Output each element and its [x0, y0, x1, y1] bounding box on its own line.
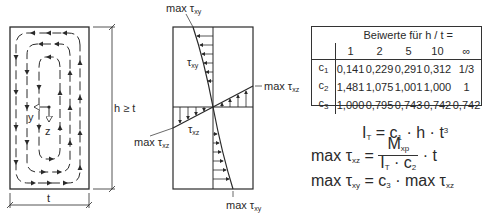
coefficient-table: Beiwerte für h / t = 1 2 5 10 ∞ c1 0,141…	[311, 26, 482, 106]
table-cell: 0,312	[423, 60, 452, 79]
table-row: c1 0,141 0,229 0,291 0,312 1/3	[312, 60, 481, 79]
table-cell: 1,001	[394, 78, 423, 96]
table-cell: 1,481	[336, 78, 366, 96]
cross-section: y z h ≥ t t	[7, 24, 139, 208]
fraction: Mxp IT · c2	[378, 137, 418, 174]
table-header-title: Beiwerte für h / t =	[336, 27, 482, 43]
label-max-tau-xz-right: max τxz	[264, 80, 300, 93]
row-label: c2	[312, 78, 336, 96]
table-cell: 1,000	[423, 78, 452, 96]
formula-max-tau-xy: max τxy = c3 · max τxz	[311, 172, 454, 190]
label-tau-xy: τxy	[187, 56, 199, 70]
column-header: 10	[423, 43, 452, 60]
column-header: ∞	[452, 43, 481, 60]
table-cell: 0,141	[336, 60, 366, 79]
table-cell: 1,000	[336, 96, 366, 114]
dimension-lines	[7, 24, 115, 208]
table-cell: 0,795	[365, 96, 394, 114]
width-dimension-label: t	[47, 192, 50, 204]
table-cell: 0,742	[423, 96, 452, 114]
label-max-tau-xy-bottom: max τxy	[226, 199, 262, 213]
height-dimension-label: h ≥ t	[114, 102, 135, 114]
table-cell: 0,291	[394, 60, 423, 79]
formula-max-tau-xz: max τxz = Mxp IT · c2 · t	[311, 137, 437, 174]
stress-distribution: max τxy τxy max τxz max τxz τxz max τxy	[134, 2, 300, 213]
table-corner	[312, 27, 336, 43]
label-max-tau-xy-top: max τxy	[166, 2, 202, 16]
table-row: c3 1,000 0,795 0,743 0,742 0,742	[312, 96, 481, 114]
column-header: 2	[365, 43, 394, 60]
table-cell: 1/3	[452, 60, 481, 79]
table-cell: 0,743	[394, 96, 423, 114]
axis-z-label: z	[45, 125, 51, 137]
table-cell: 0,742	[452, 96, 481, 114]
axis-y-label: y	[28, 111, 34, 123]
label-max-tau-xz-left: max τxz	[134, 136, 170, 149]
row-label: c1	[312, 60, 336, 79]
table-cell: 1	[452, 78, 481, 96]
table-cell: 1,075	[365, 78, 394, 96]
table-row: c2 1,481 1,075 1,001 1,000 1	[312, 78, 481, 96]
label-tau-xz: τxz	[188, 123, 200, 136]
row-label: c3	[312, 96, 336, 114]
table-cell: 0,229	[365, 60, 394, 79]
column-header: 1	[336, 43, 366, 60]
column-header: 5	[394, 43, 423, 60]
